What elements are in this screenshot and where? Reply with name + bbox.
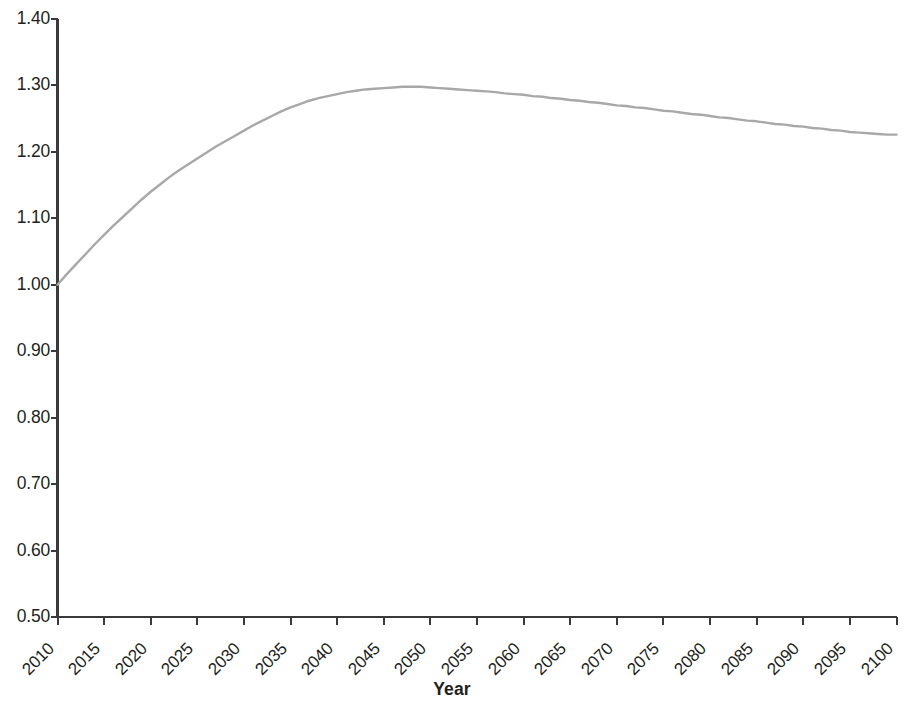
x-axis-tick-label: 2050 xyxy=(391,640,429,678)
x-axis-tick-label: 2040 xyxy=(298,640,336,678)
x-axis-tick-label: 2010 xyxy=(19,640,57,678)
x-axis-tick-label: 2090 xyxy=(764,640,802,678)
x-axis-tick-label: 2030 xyxy=(205,640,243,678)
x-axis-tick-label: 2100 xyxy=(858,640,896,678)
x-axis-tick-label: 2055 xyxy=(438,640,476,678)
x-axis-tick-label: 2045 xyxy=(345,640,383,678)
x-axis-tick-label: 2085 xyxy=(718,640,756,678)
x-axis-tick-label: 2080 xyxy=(671,640,709,678)
x-axis-tick-label: 2070 xyxy=(578,640,616,678)
x-axis-tick-label: 2075 xyxy=(624,640,662,678)
chart-container: 1.401.301.201.101.000.900.800.700.600.50… xyxy=(0,0,904,708)
x-axis-tick-label: 2020 xyxy=(112,640,150,678)
x-axis-tick-label: 2065 xyxy=(531,640,569,678)
x-axis-tick-labels: 2010201520202025203020352040204520502055… xyxy=(0,0,904,708)
x-axis-title: Year xyxy=(0,679,904,700)
x-axis-tick-label: 2060 xyxy=(485,640,523,678)
x-axis-tick-label: 2015 xyxy=(65,640,103,678)
x-axis-tick-label: 2035 xyxy=(252,640,290,678)
x-axis-tick-label: 2095 xyxy=(811,640,849,678)
x-axis-tick-label: 2025 xyxy=(158,640,196,678)
